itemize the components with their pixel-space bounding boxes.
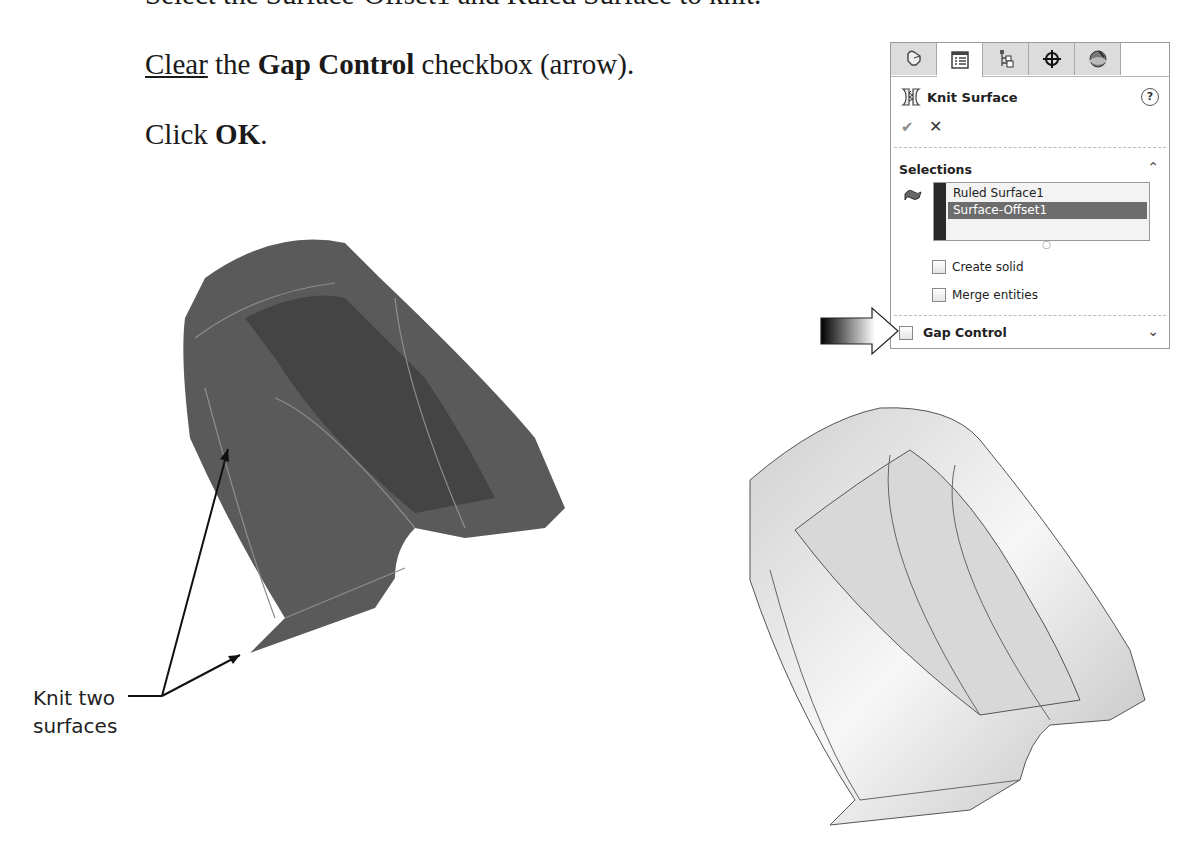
pointer-arrow-icon: [820, 306, 900, 356]
instruction-bold-term: Gap Control: [258, 48, 415, 80]
crosshair-icon: [1041, 48, 1063, 70]
configuration-icon: [995, 48, 1017, 70]
gap-control-label: Gap Control: [923, 325, 1007, 340]
divider: [894, 147, 1166, 148]
cut-off-instruction: Select the Surface-Offset1 and Ruled Sur…: [145, 0, 761, 11]
ok-button[interactable]: ✔: [901, 118, 914, 136]
selection-list[interactable]: Ruled Surface1 Surface-Offset1: [933, 182, 1150, 241]
instruction-text: .: [260, 118, 267, 150]
appearance-sphere-icon: [1087, 48, 1109, 70]
tab-configuration-manager[interactable]: [983, 43, 1029, 75]
tab-display-manager[interactable]: [1075, 43, 1121, 75]
feature-tree-icon: [903, 48, 925, 70]
knit-result-model-light: [730, 400, 1170, 840]
surface-selection-icon: [903, 188, 923, 207]
instruction-underlined-word: Clear: [145, 48, 208, 80]
callout-label-line2: surfaces: [33, 714, 117, 738]
instruction-clear-gap-control: Clear the Gap Control checkbox (arrow).: [145, 48, 634, 81]
instruction-bold-term: OK: [215, 118, 260, 150]
property-manager-icon: [949, 49, 971, 71]
selection-list-item-highlighted[interactable]: Surface-Offset1: [948, 202, 1147, 219]
instruction-text: the: [208, 48, 258, 80]
callout-label-line1: Knit two: [33, 686, 115, 710]
gap-control-section[interactable]: Gap Control: [899, 325, 1007, 340]
expand-chevron-down-icon[interactable]: ⌄: [1147, 323, 1159, 339]
instruction-text: checkbox (arrow).: [414, 48, 634, 80]
merge-entities-checkbox[interactable]: [932, 288, 946, 302]
create-solid-option[interactable]: Create solid: [932, 260, 1024, 274]
feature-title: Knit Surface: [901, 87, 1018, 107]
instruction-text: Click: [145, 118, 215, 150]
cancel-button[interactable]: ✕: [929, 117, 942, 136]
gap-control-checkbox[interactable]: [899, 326, 913, 340]
selections-section-title[interactable]: Selections: [899, 162, 972, 177]
knit-surface-property-manager: Knit Surface ? ✔ ✕ Selections ⌃ Ruled Su…: [890, 42, 1170, 349]
divider: [894, 315, 1166, 316]
create-solid-checkbox[interactable]: [932, 260, 946, 274]
selection-list-item[interactable]: Ruled Surface1: [948, 185, 1147, 202]
resize-handle-icon[interactable]: ◯: [1042, 240, 1051, 249]
create-solid-label: Create solid: [952, 260, 1024, 274]
instruction-click-ok: Click OK.: [145, 118, 267, 151]
manager-tabs: [891, 43, 1169, 77]
tab-dimxpert-manager[interactable]: [1029, 43, 1075, 75]
selection-color-bar: [934, 183, 946, 240]
knit-surface-icon: [901, 87, 921, 107]
tab-feature-manager[interactable]: [891, 43, 937, 75]
feature-title-label: Knit Surface: [927, 90, 1018, 105]
collapse-chevron-up-icon[interactable]: ⌃: [1147, 159, 1159, 175]
help-button[interactable]: ?: [1141, 88, 1159, 106]
merge-entities-label: Merge entities: [952, 288, 1038, 302]
merge-entities-option[interactable]: Merge entities: [932, 288, 1038, 302]
callout-arrows: [120, 440, 260, 710]
tab-property-manager[interactable]: [937, 43, 983, 77]
